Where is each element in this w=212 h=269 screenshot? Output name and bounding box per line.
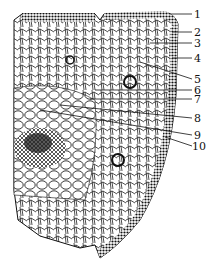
tissue-diagram (0, 0, 212, 269)
label-7: 7 (194, 94, 201, 105)
label-8: 8 (194, 113, 201, 124)
label-4: 4 (194, 53, 201, 64)
label-3: 3 (194, 38, 201, 49)
label-1: 1 (194, 9, 201, 20)
label-10: 10 (192, 141, 206, 152)
tissue-body (14, 11, 178, 258)
